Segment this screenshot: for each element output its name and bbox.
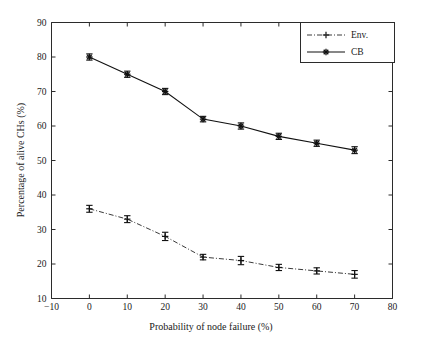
legend-label: CB: [351, 47, 364, 57]
x-tick-label: 10: [123, 302, 133, 312]
y-tick-label: 80: [37, 52, 47, 62]
x-tick-label: 40: [236, 302, 246, 312]
x-tick-label: 80: [388, 302, 398, 312]
x-tick-label: 50: [274, 302, 284, 312]
y-tick-label: 10: [37, 294, 47, 304]
chart-legend[interactable]: Env.CB: [301, 23, 395, 63]
x-tick-label: 0: [87, 302, 92, 312]
x-axis-title: Probability of node failure (%): [149, 321, 272, 333]
y-tick-label: 50: [37, 156, 47, 166]
y-tick-label: 90: [37, 18, 47, 28]
y-tick-label: 70: [37, 87, 47, 97]
y-axis-title: Percentage of alive CHs (%): [15, 103, 27, 217]
legend-label: Env.: [351, 30, 368, 40]
y-tick-label: 30: [37, 225, 47, 235]
chart-figure: −1001020304050607080 102030405060708090 …: [0, 0, 423, 347]
y-tick-label: 20: [37, 259, 47, 269]
y-tick-label: 60: [37, 121, 47, 131]
x-tick-label: 20: [160, 302, 170, 312]
x-tick-label: 60: [312, 302, 322, 312]
y-tick-label: 40: [37, 190, 47, 200]
x-tick-label: 30: [198, 302, 208, 312]
legend-box: [301, 23, 395, 63]
x-tick-label: 70: [350, 302, 360, 312]
line-chart-canvas: −1001020304050607080 102030405060708090 …: [0, 0, 423, 347]
